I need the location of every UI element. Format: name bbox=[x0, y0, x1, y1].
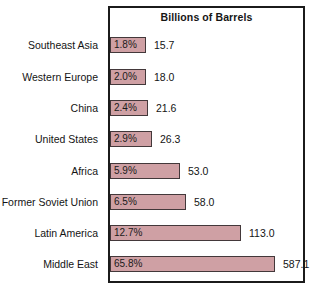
bar-row: United States2.9%26.3 bbox=[0, 131, 310, 147]
category-label: China bbox=[0, 100, 98, 116]
bar-container: 12.7% bbox=[110, 225, 241, 241]
bar-percent-label: 6.5% bbox=[114, 194, 137, 210]
bar-percent-label: 2.0% bbox=[114, 69, 137, 85]
bar-percent-label: 65.8% bbox=[114, 256, 142, 272]
bar-row: Western Europe2.0%18.0 bbox=[0, 69, 310, 85]
category-label: Southeast Asia bbox=[0, 37, 98, 53]
bar-value-label: 113.0 bbox=[249, 225, 275, 241]
bar-percent-label: 2.4% bbox=[114, 100, 137, 116]
bar-row: Former Soviet Union6.5%58.0 bbox=[0, 194, 310, 210]
bar-percent-label: 5.9% bbox=[114, 163, 137, 179]
bar-value-label: 58.0 bbox=[194, 194, 214, 210]
bar-percent-label: 1.8% bbox=[114, 37, 137, 53]
bar-container: 65.8% bbox=[110, 256, 275, 272]
category-label: Western Europe bbox=[0, 69, 98, 85]
bar-container: 1.8% bbox=[110, 37, 146, 53]
bar-chart: Billions of Barrels Southeast Asia1.8%15… bbox=[0, 0, 310, 292]
bar-percent-label: 12.7% bbox=[114, 225, 142, 241]
category-label: Middle East bbox=[0, 256, 98, 272]
category-label: Former Soviet Union bbox=[0, 194, 98, 210]
category-label: Africa bbox=[0, 163, 98, 179]
bar-row: Latin America12.7%113.0 bbox=[0, 225, 310, 241]
category-label: Latin America bbox=[0, 225, 98, 241]
bar-value-label: 15.7 bbox=[154, 37, 174, 53]
bar-row: China2.4%21.6 bbox=[0, 100, 310, 116]
bar-value-label: 18.0 bbox=[154, 69, 174, 85]
bar-row: Africa5.9%53.0 bbox=[0, 163, 310, 179]
bar-value-label: 53.0 bbox=[188, 163, 208, 179]
bar-value-label: 26.3 bbox=[160, 131, 180, 147]
bar-value-label: 587.1 bbox=[283, 256, 309, 272]
bar-value-label: 21.6 bbox=[156, 100, 176, 116]
bar-row: Southeast Asia1.8%15.7 bbox=[0, 37, 310, 53]
chart-title: Billions of Barrels bbox=[108, 11, 305, 23]
bar-container: 6.5% bbox=[110, 194, 186, 210]
category-label: United States bbox=[0, 131, 98, 147]
bar-row: Middle East65.8%587.1 bbox=[0, 256, 310, 272]
bar-container: 2.9% bbox=[110, 131, 152, 147]
bar-container: 5.9% bbox=[110, 163, 180, 179]
bar-container: 2.4% bbox=[110, 100, 148, 116]
bar-container: 2.0% bbox=[110, 69, 146, 85]
bar-percent-label: 2.9% bbox=[114, 131, 137, 147]
